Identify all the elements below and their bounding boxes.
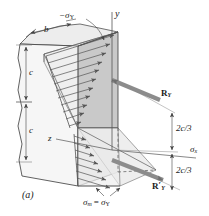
label-y-axis: y — [115, 9, 119, 19]
label-z-axis: z — [48, 134, 52, 143]
figure-caption: (a) — [22, 190, 34, 200]
label-resultant-lower: R′Y — [152, 181, 165, 192]
compressive-stress-subscript: Y — [70, 14, 74, 20]
lower-stress-block — [78, 128, 156, 186]
label-dimension-c-lower: c — [29, 126, 33, 135]
resultant-lower-subscript: Y — [161, 185, 165, 191]
equals-sign: = — [92, 197, 101, 207]
stress-distribution-diagram — [0, 0, 209, 216]
leader-line-max-stress — [96, 188, 120, 196]
label-compressive-yield-stress: −σY — [59, 11, 74, 21]
resultant-arrow-upper — [112, 80, 160, 100]
figure-container: −σY y z σx b c c 2c/3 2c/3 RY R′Y σm=σY … — [0, 0, 209, 216]
label-dimension-2c3-upper: 2c/3 — [176, 124, 192, 133]
label-x-axis-stress: σx — [190, 145, 197, 155]
compressive-stress-symbol: −σ — [59, 10, 70, 20]
x-axis-subscript: x — [194, 148, 197, 154]
resultant-upper-symbol: R — [161, 88, 168, 98]
label-dimension-b: b — [44, 25, 49, 34]
label-dimension-c-upper: c — [29, 68, 33, 77]
label-max-stress-equation: σm=σY — [83, 198, 110, 208]
label-dimension-2c3-lower: 2c/3 — [176, 166, 192, 175]
label-resultant-upper: RY — [161, 89, 171, 99]
yield-stress-subscript: Y — [105, 201, 109, 207]
resultant-upper-subscript: Y — [168, 92, 172, 98]
